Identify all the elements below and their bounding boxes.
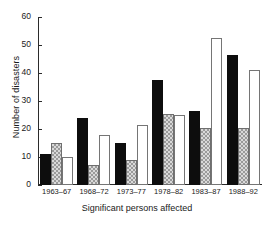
bar-series-black[interactable] (40, 154, 51, 185)
bar-series-white[interactable] (99, 135, 110, 185)
bar-series-white[interactable] (62, 157, 73, 185)
bar-group (150, 17, 187, 185)
chart-root: Number of disasters 0102030405060 1963–6… (0, 0, 274, 226)
x-axis-tick-label: 1978–82 (150, 187, 187, 196)
bar-series-hatched[interactable] (163, 114, 174, 185)
y-axis-tick-label: 50 (9, 39, 31, 50)
x-axis-tick-label: 1968–72 (75, 187, 112, 196)
bar-series-white[interactable] (211, 38, 222, 185)
bar-series-hatched[interactable] (88, 165, 99, 185)
y-axis-tick-label: 30 (9, 95, 31, 106)
bar-series-hatched[interactable] (51, 143, 62, 185)
y-axis-tick-label: 20 (9, 123, 31, 134)
y-axis-tick-label: 40 (9, 67, 31, 78)
x-axis-tick-label: 1988–92 (225, 187, 262, 196)
bar-group (187, 17, 224, 185)
x-axis-title: Significant persons affected (0, 203, 274, 213)
bar-series-hatched[interactable] (126, 160, 137, 185)
y-axis-tick-label: 10 (9, 151, 31, 162)
bar-series-hatched[interactable] (200, 128, 211, 185)
bar-series-white[interactable] (174, 115, 185, 185)
bar-series-white[interactable] (249, 70, 260, 185)
bar-series-black[interactable] (227, 55, 238, 185)
bar-group (38, 17, 75, 185)
x-axis-tick-label: 1983–87 (187, 187, 224, 196)
x-axis-tick-labels: 1963–671968–721973–771978–821983–871988–… (38, 187, 262, 196)
bar-series-black[interactable] (152, 80, 163, 185)
bar-series-black[interactable] (115, 143, 126, 185)
bar-group (113, 17, 150, 185)
bar-series-hatched[interactable] (238, 128, 249, 185)
plot-area: 0102030405060 (38, 17, 262, 185)
bar-groups (38, 17, 262, 185)
x-axis-tick-label: 1973–77 (113, 187, 150, 196)
y-axis-tick-label: 60 (9, 11, 31, 22)
bar-group (225, 17, 262, 185)
bar-group (75, 17, 112, 185)
x-axis-tick-label: 1963–67 (38, 187, 75, 196)
bar-series-white[interactable] (137, 125, 148, 185)
bar-series-black[interactable] (189, 111, 200, 185)
bar-series-black[interactable] (77, 118, 88, 185)
y-axis-tick-label: 0 (9, 179, 31, 190)
